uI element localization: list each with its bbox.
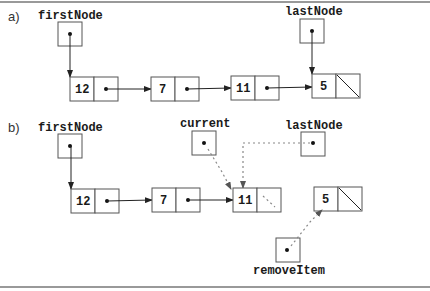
pointer-label-current: current: [180, 117, 230, 131]
pointer-dot: [202, 141, 206, 145]
part-a-label: a): [8, 9, 20, 24]
pointer-label-lastnode: lastNode: [285, 5, 343, 19]
pointer-label-lastnode: lastNode: [285, 119, 343, 133]
node-value: 11: [236, 82, 250, 96]
pointer-dot: [311, 141, 315, 145]
node-11: 11: [233, 188, 281, 212]
part-b: b) firstNode current lastNode 12 7: [8, 117, 362, 278]
linked-list-diagram: a) firstNode lastNode 12 7: [0, 0, 430, 291]
part-b-label: b): [8, 120, 20, 135]
pointer-label-firstnode: firstNode: [38, 121, 103, 135]
node-value: 7: [160, 194, 167, 208]
dashed-arrow-current-to-node-11: [208, 149, 231, 189]
pointer-label-removeitem: removeItem: [253, 264, 325, 278]
part-a: a) firstNode lastNode 12 7: [8, 5, 360, 101]
dashed-arrow-lastnode-to-node-11: [243, 143, 310, 188]
node-next-cell: [257, 188, 281, 212]
node-value: 11: [238, 194, 252, 208]
pointer-label-firstnode: firstNode: [38, 9, 103, 23]
node-5: 5: [314, 187, 362, 211]
node-value: 7: [159, 83, 166, 97]
node-5: 5: [312, 74, 360, 98]
node-value: 12: [75, 83, 89, 97]
pointer-dot: [285, 248, 289, 252]
node-value: 12: [76, 195, 90, 209]
node-value: 5: [322, 193, 329, 207]
node-value: 5: [320, 80, 327, 94]
